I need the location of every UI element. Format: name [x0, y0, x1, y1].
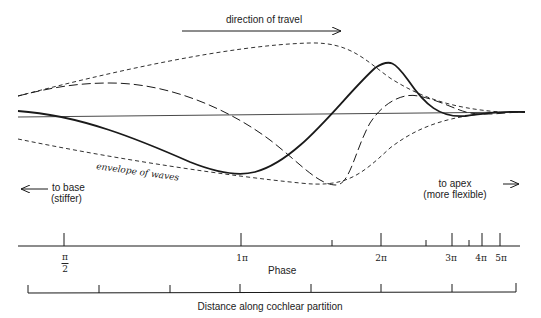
- wave-earlier-instant: [18, 83, 525, 185]
- phase-axis: [18, 233, 520, 246]
- wave-current-instant: [18, 63, 525, 174]
- tick-label-5pi: 5π: [495, 253, 507, 263]
- pi-half-denominator: 2: [62, 265, 68, 274]
- pi-half-numerator: π: [62, 253, 68, 262]
- tick-label-4pi: 4π: [475, 253, 487, 263]
- to-base-label-line1: to base: [52, 182, 85, 193]
- lower-envelope: [18, 112, 500, 184]
- tick-label-2pi: 2π: [375, 253, 387, 263]
- distance-axis: [28, 283, 516, 293]
- tick-label-3pi: 3π: [445, 253, 457, 263]
- tick-label-1pi: 1π: [236, 253, 248, 263]
- to-base-label-line2: (stiffer): [51, 193, 82, 204]
- distance-axis-label: Distance along cochlear partition: [197, 301, 342, 312]
- direction-of-travel-label: direction of travel: [226, 14, 302, 25]
- upper-envelope: [18, 43, 500, 112]
- to-apex-label-line1: to apex: [420, 178, 490, 189]
- phase-axis-label: Phase: [268, 265, 296, 276]
- to-apex-label-line2: (more flexible): [415, 189, 495, 200]
- tick-label-pi-half: π 2: [62, 253, 69, 274]
